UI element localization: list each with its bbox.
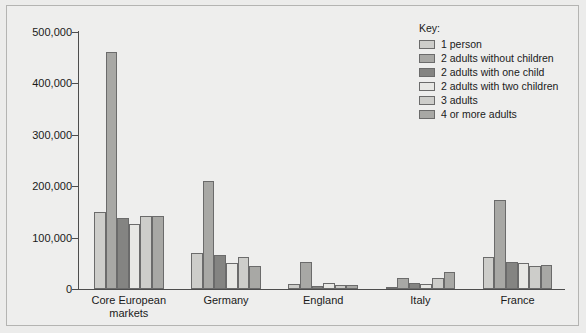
legend-item-label: 2 adults with one child (441, 66, 544, 78)
bar (117, 218, 129, 289)
bar (494, 200, 506, 289)
y-axis-tick (72, 289, 78, 290)
legend-item: 2 adults with one child (419, 65, 558, 79)
bar (323, 283, 335, 289)
y-axis-tick-label: 400,000 (0, 78, 72, 88)
y-axis-tick-label: 300,000 (0, 130, 72, 140)
y-axis-tick-label: 0 (0, 284, 72, 294)
bar (432, 278, 444, 289)
x-axis-label: France (458, 294, 578, 307)
legend-swatch-icon (419, 68, 435, 77)
bar (397, 278, 409, 289)
bar (106, 52, 118, 289)
bar (444, 272, 456, 289)
legend-swatch-icon (419, 54, 435, 63)
bar (288, 284, 300, 289)
y-axis-tick-label: 500,000 (0, 27, 72, 37)
bar (312, 286, 324, 289)
bar (129, 224, 141, 289)
legend-item-label: 2 adults with two children (441, 80, 558, 92)
bar (529, 266, 541, 289)
bar (152, 216, 164, 289)
chart-frame: 500,000400,000300,000200,000100,0000 Cor… (6, 5, 579, 326)
bar (300, 262, 312, 289)
bar (506, 262, 518, 289)
legend: Key: 1 person2 adults without children2 … (419, 22, 558, 121)
legend-item-label: 3 adults (441, 94, 478, 106)
legend-swatch-icon (419, 96, 435, 105)
legend-item: 3 adults (419, 93, 558, 107)
legend-item: 1 person (419, 37, 558, 51)
x-axis-line (78, 289, 565, 290)
bar (518, 263, 530, 289)
legend-item: 2 adults with two children (419, 79, 558, 93)
bar (346, 285, 358, 289)
bar (140, 216, 152, 289)
chart-figure: 500,000400,000300,000200,000100,0000 Cor… (0, 0, 586, 333)
bar (541, 265, 553, 289)
bar (483, 257, 495, 289)
legend-item: 4 or more adults (419, 107, 558, 121)
legend-title: Key: (419, 22, 558, 34)
legend-entries: 1 person2 adults without children2 adult… (419, 37, 558, 121)
bar (386, 287, 398, 289)
legend-item: 2 adults without children (419, 51, 558, 65)
legend-swatch-icon (419, 40, 435, 49)
bar (249, 266, 261, 289)
legend-swatch-icon (419, 110, 435, 119)
bar (191, 253, 203, 289)
bar (203, 181, 215, 289)
bar (238, 257, 250, 289)
bar (226, 263, 238, 289)
legend-item-label: 2 adults without children (441, 52, 554, 64)
legend-swatch-icon (419, 82, 435, 91)
bar (335, 285, 347, 289)
legend-item-label: 1 person (441, 38, 482, 50)
bar (94, 212, 106, 289)
bar (214, 255, 226, 289)
y-axis-tick-label: 200,000 (0, 181, 72, 191)
y-axis-tick-label: 100,000 (0, 233, 72, 243)
bar (420, 284, 432, 289)
bar (409, 283, 421, 289)
legend-item-label: 4 or more adults (441, 108, 517, 120)
